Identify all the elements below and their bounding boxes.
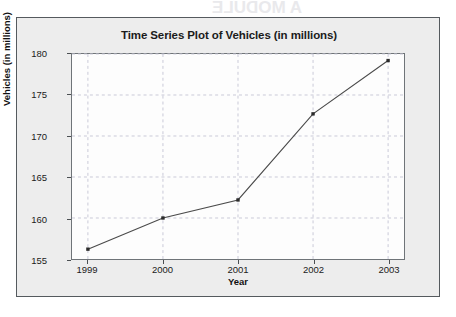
chart-card: Time Series Plot of Vehicles (in million… bbox=[16, 17, 440, 297]
y-tick-mark bbox=[67, 219, 71, 220]
y-tick-mark bbox=[67, 136, 71, 137]
bleed-through-top-text: A MODULE bbox=[212, 0, 302, 18]
x-tick-mark bbox=[163, 260, 164, 264]
y-tick-label: 175 bbox=[31, 89, 47, 100]
y-tick-mark bbox=[67, 260, 71, 261]
y-tick-mark bbox=[67, 177, 71, 178]
x-tick-mark bbox=[238, 260, 239, 264]
x-axis-title: Year bbox=[71, 276, 405, 287]
x-tick-label: 1999 bbox=[76, 264, 97, 275]
x-tick-label: 2000 bbox=[152, 264, 173, 275]
x-tick-label: 2001 bbox=[227, 264, 248, 275]
y-axis-ticks: 155160165170175180 bbox=[17, 18, 439, 296]
y-tick-label: 155 bbox=[31, 255, 47, 266]
y-tick-label: 165 bbox=[31, 172, 47, 183]
x-tick-label: 2002 bbox=[303, 264, 324, 275]
y-tick-label: 170 bbox=[31, 130, 47, 141]
y-tick-mark bbox=[67, 94, 71, 95]
y-tick-label: 180 bbox=[31, 48, 47, 59]
y-axis-title: Vehicles (in millions) bbox=[1, 12, 12, 106]
x-tick-mark bbox=[314, 260, 315, 264]
y-tick-mark bbox=[67, 53, 71, 54]
x-tick-mark bbox=[87, 260, 88, 264]
x-tick-label: 2003 bbox=[378, 264, 399, 275]
y-tick-label: 160 bbox=[31, 213, 47, 224]
x-tick-mark bbox=[389, 260, 390, 264]
